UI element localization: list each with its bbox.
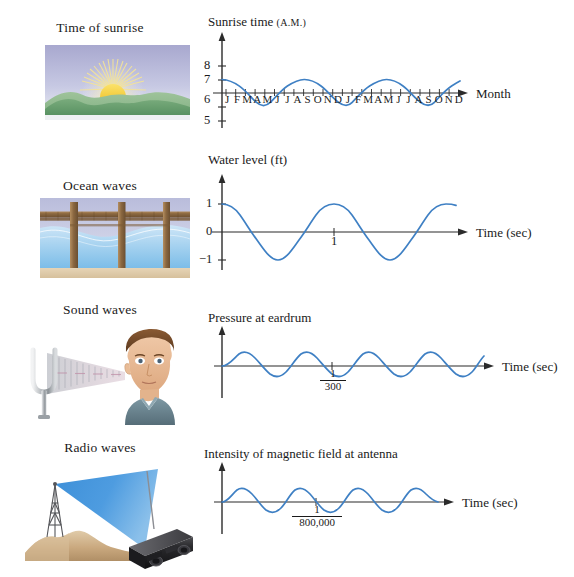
panel-radio: Radio waves <box>0 432 574 577</box>
month-tick-label: N <box>323 93 333 105</box>
illustration-sunrise-wrap: Time of sunrise <box>0 0 200 150</box>
fraction-numerator: 1 <box>320 368 346 380</box>
month-tick-label: M <box>242 93 252 105</box>
month-tick-label: M <box>262 93 272 105</box>
x-tick-1: 1 <box>331 234 337 249</box>
month-tick-label: A <box>373 93 383 105</box>
month-tick-label: J <box>222 93 232 105</box>
y-tick-1: 1 <box>206 196 212 211</box>
month-tick-label: J <box>403 93 413 105</box>
x-axis-label-time-sec: Time (sec) <box>502 359 558 375</box>
fraction-denominator: 300 <box>320 380 346 393</box>
panel-sunrise: Time of sunrise <box>0 0 574 150</box>
illustration-radio-wrap: Radio waves <box>0 432 200 577</box>
sunrise-over-hills-illustration <box>45 45 190 120</box>
month-tick-label: N <box>444 93 454 105</box>
month-tick-label: A <box>293 93 303 105</box>
month-tick-label: D <box>454 93 464 105</box>
month-tick-label: O <box>313 93 323 105</box>
month-tick-label: O <box>434 93 444 105</box>
sunrise-plot-svg <box>198 0 574 150</box>
x-axis-label-month: Month <box>476 86 511 102</box>
y-tick-6: 6 <box>204 92 210 107</box>
y-tick-0: 0 <box>206 224 212 239</box>
radio-plot-svg <box>198 432 574 577</box>
month-tick-label: J <box>272 93 282 105</box>
month-tick-label: A <box>252 93 262 105</box>
month-tick-label: F <box>353 93 363 105</box>
tuning-fork-and-listener-illustration <box>25 320 200 425</box>
month-tick-label: S <box>303 93 313 105</box>
month-tick-labels: JFMAMJJASONDJFMAMJJASOND <box>222 93 464 105</box>
panel-sound: Sound waves <box>0 296 574 432</box>
chart-radio: Intensity of magnetic field at antenna 1… <box>198 432 574 577</box>
x-tick-fraction-1-800000: 1 800,000 <box>292 504 342 528</box>
month-tick-label: S <box>424 93 434 105</box>
y-tick-5: 5 <box>204 113 210 128</box>
y-tick-7: 7 <box>204 72 210 87</box>
caption-time-of-sunrise: Time of sunrise <box>0 20 200 36</box>
month-tick-label: J <box>282 93 292 105</box>
month-tick-label: J <box>393 93 403 105</box>
caption-sound-waves: Sound waves <box>0 302 200 318</box>
chart-sunrise: Sunrise time (A.M.) <box>198 0 574 150</box>
panel-ocean: Ocean waves <box>0 148 574 296</box>
fraction-numerator: 1 <box>292 504 342 516</box>
month-tick-label: J <box>343 93 353 105</box>
month-tick-label: F <box>232 93 242 105</box>
x-tick-fraction-1-300: 1 300 <box>320 368 346 392</box>
chart-sound: Pressure at eardrum 1 300 Time (sec) <box>198 296 574 432</box>
pier-over-ocean-waves-illustration <box>40 198 190 278</box>
illustration-sound-wrap: Sound waves <box>0 296 200 432</box>
y-tick-8: 8 <box>204 58 210 73</box>
y-tick-neg-1: −1 <box>199 252 212 267</box>
fraction-denominator: 800,000 <box>292 516 342 529</box>
month-tick-label: D <box>333 93 343 105</box>
ocean-plot-svg <box>198 148 574 296</box>
month-tick-label: M <box>363 93 373 105</box>
month-tick-label: A <box>413 93 423 105</box>
illustration-ocean-wrap: Ocean waves <box>0 148 200 296</box>
caption-radio-waves: Radio waves <box>0 440 200 456</box>
caption-ocean-waves: Ocean waves <box>0 178 200 194</box>
transmission-tower-and-radio-illustration <box>25 457 200 575</box>
month-tick-label: M <box>383 93 393 105</box>
x-axis-label-time-sec: Time (sec) <box>462 495 518 511</box>
chart-ocean: Water level (ft) 1 0 −1 1 Time (sec) <box>198 148 574 296</box>
x-axis-label-time-sec: Time (sec) <box>476 225 532 241</box>
